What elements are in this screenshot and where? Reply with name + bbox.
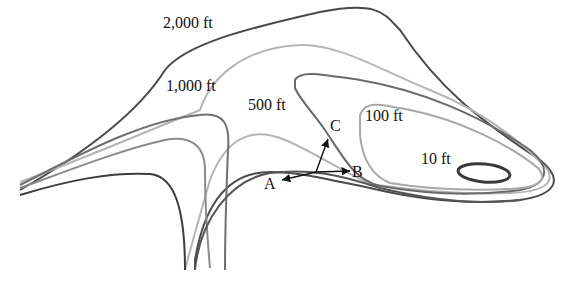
label-10ft: 10 ft [421, 150, 451, 167]
contour-diagram: 2,000 ft 1,000 ft 500 ft 100 ft 10 ft A … [0, 0, 570, 287]
contour-500ft-left-inner [20, 139, 210, 268]
point-label-A: A [264, 175, 276, 192]
point-label-B: B [352, 163, 363, 180]
contour-10ft [457, 162, 510, 184]
vector-B [316, 171, 350, 172]
label-100ft: 100 ft [365, 107, 403, 124]
label-1000ft: 1,000 ft [166, 77, 216, 94]
point-label-C: C [330, 117, 341, 134]
contour-lower-left [20, 174, 185, 270]
label-500ft: 500 ft [248, 96, 286, 113]
contour-1000ft [20, 45, 550, 270]
label-2000ft: 2,000 ft [163, 14, 213, 31]
